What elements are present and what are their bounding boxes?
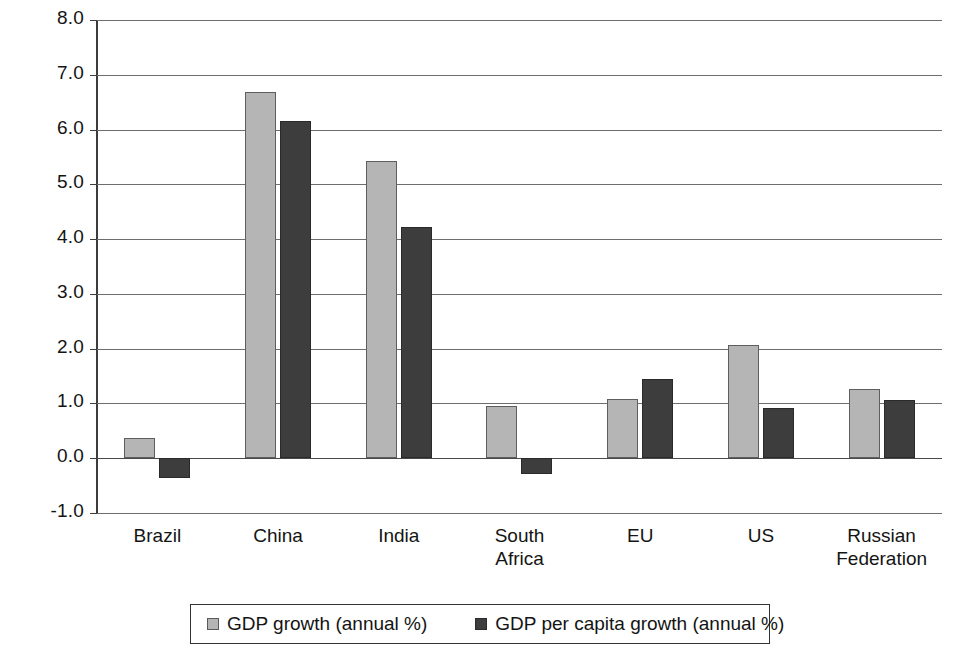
x-axis-category-label: India	[338, 524, 459, 547]
bar-gdp-per-capita-growth	[763, 408, 794, 458]
legend-swatch-icon-gdp-growth	[207, 618, 219, 630]
y-axis-tick-label: 3.0	[57, 281, 84, 303]
bar-group	[97, 20, 218, 513]
y-axis-tick	[90, 239, 97, 240]
y-axis-tick-label: 7.0	[57, 62, 84, 84]
bar-chart: 8.07.06.05.04.03.02.01.00.0-1.0 BrazilCh…	[0, 0, 953, 650]
gridline	[97, 513, 942, 514]
y-axis-labels: 8.07.06.05.04.03.02.01.00.0-1.0	[0, 0, 84, 650]
bar-gdp-growth	[245, 92, 276, 458]
bar-group	[821, 20, 942, 513]
y-axis-tick-label: 2.0	[57, 336, 84, 358]
y-axis-tick	[90, 184, 97, 185]
bar-gdp-per-capita-growth	[884, 400, 915, 458]
y-axis-tick-label: 4.0	[57, 226, 84, 248]
x-axis-category-label: South Africa	[459, 524, 580, 570]
legend-item-gdp-per-capita-growth: GDP per capita growth (annual %)	[475, 613, 784, 635]
bar-gdp-per-capita-growth	[521, 458, 552, 473]
y-axis-tick-label: -1.0	[50, 500, 84, 522]
y-axis-tick	[90, 20, 97, 21]
bar-gdp-per-capita-growth	[642, 379, 673, 458]
y-axis-tick	[90, 294, 97, 295]
bar-group	[701, 20, 822, 513]
bar-group	[580, 20, 701, 513]
y-axis-tick	[90, 75, 97, 76]
x-axis-category-label: EU	[580, 524, 701, 547]
legend-label-gdp-per-capita-growth: GDP per capita growth (annual %)	[495, 613, 784, 635]
bar-gdp-growth	[486, 406, 517, 458]
bar-group	[218, 20, 339, 513]
y-axis-tick-label: 5.0	[57, 171, 84, 193]
x-axis-category-label: Brazil	[97, 524, 218, 547]
legend-label-gdp-growth: GDP growth (annual %)	[227, 613, 427, 635]
y-axis-tick	[90, 513, 97, 514]
bar-group	[338, 20, 459, 513]
bar-group	[459, 20, 580, 513]
bar-gdp-growth	[124, 438, 155, 458]
y-axis-tick	[90, 349, 97, 350]
bar-gdp-per-capita-growth	[159, 458, 190, 478]
bar-gdp-growth	[607, 399, 638, 459]
y-axis-tick-label: 8.0	[57, 7, 84, 29]
y-axis-tick	[90, 458, 97, 459]
bar-gdp-growth	[366, 161, 397, 458]
bar-gdp-per-capita-growth	[401, 227, 432, 459]
plot-area	[97, 20, 942, 513]
bar-gdp-growth	[728, 345, 759, 458]
x-axis-category-label: China	[218, 524, 339, 547]
chart-legend: GDP growth (annual %) GDP per capita gro…	[190, 604, 770, 644]
x-axis-category-label: Russian Federation	[821, 524, 942, 570]
y-axis-tick-label: 0.0	[57, 445, 84, 467]
y-axis-tick	[90, 130, 97, 131]
y-axis-tick	[90, 403, 97, 404]
legend-swatch-icon-gdp-per-capita-growth	[475, 618, 487, 630]
legend-item-gdp-growth: GDP growth (annual %)	[207, 613, 427, 635]
y-axis-tick-label: 1.0	[57, 390, 84, 412]
y-axis-tick-label: 6.0	[57, 117, 84, 139]
bar-gdp-growth	[849, 389, 880, 459]
x-axis-category-label: US	[701, 524, 822, 547]
bar-gdp-per-capita-growth	[280, 121, 311, 458]
